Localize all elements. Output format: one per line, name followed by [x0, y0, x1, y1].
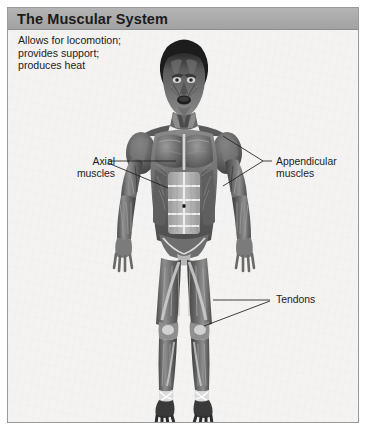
label-tendons: Tendons — [276, 294, 346, 306]
torso-group — [151, 130, 218, 266]
legs-group — [155, 258, 212, 423]
page-title: The Muscular System — [17, 11, 168, 27]
label-axial-muscles: Axial muscles — [65, 156, 115, 180]
label-appendicular-muscles: Appendicular muscles — [276, 156, 356, 180]
figure-container — [8, 30, 359, 423]
muscular-system-panel: The Muscular System Allows for locomotio… — [7, 7, 359, 423]
muscular-anatomy-figure — [89, 30, 279, 423]
head-group — [160, 40, 208, 117]
